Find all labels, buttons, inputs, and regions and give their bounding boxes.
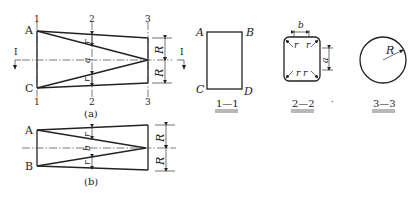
- section-1-1: A B C D 1—1: [195, 26, 254, 112]
- point-label-c: C: [25, 82, 33, 95]
- point-label-a: A: [24, 24, 34, 37]
- dim-R-lower: R: [153, 69, 166, 78]
- figure-a: 1 1 2 2 3 3 A C I I r a r: [13, 14, 186, 119]
- section-mark-1-top: 1: [34, 14, 40, 24]
- figure-b: A B r b r R R (b): [22, 124, 176, 187]
- caption-b: (b): [84, 176, 98, 187]
- dim-R-upper: R: [153, 46, 166, 55]
- svg-text:I: I: [14, 47, 18, 57]
- dim-R-b-upper: R: [154, 134, 167, 143]
- dim-r-lower: r: [82, 77, 92, 82]
- section-mark-3-top: 3: [145, 14, 151, 24]
- corner-c: C: [196, 83, 205, 96]
- beam-b-bottom-edge: [37, 166, 148, 170]
- corner-d: D: [243, 85, 253, 98]
- separator-dot: ·: [331, 97, 334, 107]
- beam-b-top-edge: [37, 125, 148, 130]
- beam-top-edge: [37, 31, 148, 38]
- dim-b: b: [82, 145, 92, 151]
- section-2-2: b a r r r r 2—2: [284, 20, 333, 112]
- section-title-2-2: 2—2: [292, 98, 315, 109]
- point-label-a-b: A: [24, 124, 34, 137]
- dim-r-tl: r: [294, 40, 299, 50]
- dim-R-b-lower: R: [154, 157, 167, 166]
- point-label-b: B: [25, 160, 33, 173]
- dim-r-upper: r: [82, 39, 92, 44]
- dim-a: a: [82, 58, 92, 63]
- dim-section-b: r b r: [82, 127, 92, 169]
- dim-r-tr: r: [306, 40, 311, 50]
- section-title-1-1: 1—1: [216, 98, 239, 109]
- dim-section-2: r a r: [82, 34, 92, 86]
- corner-b: B: [245, 26, 254, 39]
- beam-diagram: 1 1 2 2 3 3 A C I I r a r: [0, 0, 419, 202]
- dim-r-br: r: [303, 68, 308, 78]
- dim-r-b-lower: r: [82, 160, 92, 165]
- section-title-3-3: 3—3: [373, 98, 396, 109]
- svg-text:I: I: [180, 47, 184, 57]
- dim-R-3-3: R: [385, 44, 394, 57]
- dim-a-2-2: a: [320, 58, 330, 63]
- section-mark-2-top: 2: [89, 14, 95, 24]
- corner-a: A: [195, 26, 204, 39]
- caption-a: (a): [84, 108, 98, 119]
- dim-R-a: R R: [152, 38, 172, 83]
- cut-mark-left: I: [13, 47, 21, 70]
- cut-mark-right: I: [177, 47, 186, 70]
- dim-r-b-upper: r: [82, 132, 92, 137]
- section-mark-1-bottom: 1: [34, 97, 40, 107]
- dim-r-bl: r: [296, 68, 301, 78]
- rectangle-section: [207, 32, 242, 89]
- section-mark-2-bottom: 2: [89, 97, 95, 107]
- section-mark-3-bottom: 3: [145, 97, 151, 107]
- dim-b-2-2: b: [298, 20, 304, 30]
- diagonal-upper: [37, 31, 148, 60]
- section-3-3: R 3—3: [360, 37, 406, 112]
